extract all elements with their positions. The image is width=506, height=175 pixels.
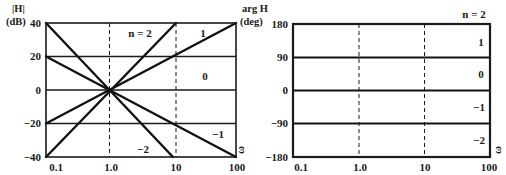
mag-xtick: 0.1 (49, 161, 63, 173)
phase-ytick: −180 (265, 151, 288, 163)
phase-ytick: 90 (277, 51, 289, 63)
mag-ytick: 0 (36, 84, 42, 96)
phase-label-nm2: −2 (473, 134, 485, 146)
phase-xtick: 10 (420, 161, 432, 173)
mag-ytick: −40 (24, 151, 42, 163)
mag-xtick: 1.0 (104, 161, 118, 173)
mag-label-n1: 1 (200, 27, 206, 39)
phase-ylabel-line1: arg H (242, 3, 268, 14)
phase-ytick: 0 (283, 84, 289, 96)
bode-plots: |H| (dB) 40 20 0 −20 −40 0.1 1.0 10 100 … (0, 0, 506, 175)
phase-label-n0: 0 (478, 68, 484, 80)
mag-ylabel-line1: |H| (12, 3, 25, 14)
magnitude-plot: |H| (dB) 40 20 0 −20 −40 0.1 1.0 10 100 … (6, 3, 246, 173)
mag-label-nm1: −1 (212, 128, 224, 140)
mag-xtick: 10 (171, 161, 183, 173)
mag-ytick: 40 (30, 17, 42, 29)
mag-label-nm2: −2 (137, 143, 149, 155)
phase-ylabel-line2: (deg) (240, 16, 263, 28)
phase-xtick: 100 (481, 161, 498, 173)
mag-xlabel: ω (234, 146, 246, 154)
phase-label-nm1: −1 (473, 101, 485, 113)
mag-ytick: −20 (24, 117, 42, 129)
phase-ytick: 180 (272, 18, 289, 30)
mag-label-n0: 0 (202, 70, 208, 82)
phase-xlabel: ω (491, 146, 503, 154)
phase-xtick: 0.1 (294, 161, 308, 173)
mag-ytick: 20 (30, 50, 42, 62)
mag-xtick: 100 (229, 161, 246, 173)
phase-ytick: −90 (271, 117, 289, 129)
phase-label-n1: 1 (478, 36, 484, 48)
phase-xtick: 1.0 (353, 161, 367, 173)
phase-label-n2: n = 2 (462, 8, 486, 20)
phase-plot: arg H (deg) 180 90 0 −90 −180 0.1 1.0 10… (240, 3, 503, 173)
mag-label-n2: n = 2 (128, 27, 152, 39)
mag-ylabel-line2: (dB) (6, 16, 26, 28)
